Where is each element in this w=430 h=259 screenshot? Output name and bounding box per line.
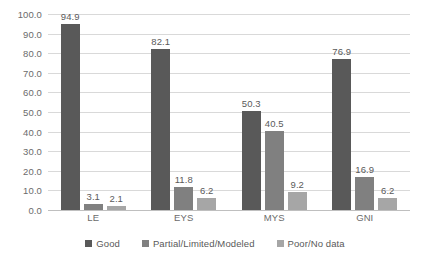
bar-eys-series-0[interactable] — [151, 49, 170, 210]
bar-value-label: 40.5 — [265, 118, 284, 129]
bar-value-label: 9.2 — [290, 179, 304, 190]
bar-value-label: 16.9 — [355, 164, 374, 175]
legend-label: Poor/No data — [288, 238, 345, 249]
bar-value-label: 50.3 — [242, 98, 261, 109]
bar-le-series-0[interactable] — [61, 24, 80, 210]
bar-eys-series-1[interactable] — [174, 187, 193, 210]
gridline — [48, 210, 410, 211]
chart-legend: GoodPartial/Limited/ModeledPoor/No data — [0, 238, 430, 249]
y-axis: 100.090.080.070.060.050.040.030.020.010.… — [0, 14, 42, 210]
bar-value-label: 82.1 — [151, 36, 170, 47]
x-axis-tick-label-le: LE — [87, 212, 99, 223]
plot-area: 94.93.12.182.111.86.250.340.59.276.916.9… — [48, 14, 410, 210]
y-axis-tick-label: 0.0 — [0, 205, 42, 216]
bar-value-label: 94.9 — [61, 11, 80, 22]
y-axis-tick-label: 40.0 — [0, 126, 42, 137]
legend-item-0[interactable]: Good — [85, 238, 120, 249]
x-axis-tick-label-mys: MYS — [264, 212, 285, 223]
bar-mys-series-0[interactable] — [242, 111, 261, 210]
bar-value-label: 6.2 — [200, 185, 214, 196]
bar-value-label: 11.8 — [175, 174, 193, 185]
bar-gni-series-0[interactable] — [332, 59, 351, 210]
x-axis: LEEYSMYSGNI — [48, 212, 410, 230]
y-axis-tick-label: 90.0 — [0, 28, 42, 39]
y-axis-tick-label: 70.0 — [0, 67, 42, 78]
bar-le-series-1[interactable] — [84, 204, 103, 210]
bar-mys-series-2[interactable] — [288, 192, 307, 210]
legend-label: Good — [96, 238, 120, 249]
y-axis-tick-label: 80.0 — [0, 48, 42, 59]
bar-gni-series-1[interactable] — [355, 177, 374, 210]
bar-group-le: 94.93.12.1 — [48, 14, 139, 210]
bar-group-eys: 82.111.86.2 — [139, 14, 230, 210]
y-axis-tick-label: 30.0 — [0, 146, 42, 157]
y-axis-tick-label: 50.0 — [0, 107, 42, 118]
y-axis-tick-label: 60.0 — [0, 87, 42, 98]
y-axis-tick-label: 20.0 — [0, 165, 42, 176]
legend-label: Partial/Limited/Modeled — [153, 238, 255, 249]
y-axis-tick-label: 10.0 — [0, 185, 42, 196]
bar-mys-series-1[interactable] — [265, 131, 284, 210]
legend-swatch-icon — [142, 240, 149, 247]
bar-le-series-2[interactable] — [107, 206, 126, 210]
legend-item-2[interactable]: Poor/No data — [277, 238, 345, 249]
bar-eys-series-2[interactable] — [197, 198, 216, 210]
bar-value-label: 3.1 — [86, 191, 100, 202]
legend-item-1[interactable]: Partial/Limited/Modeled — [142, 238, 255, 249]
bar-value-label: 76.9 — [332, 46, 351, 57]
bar-value-label: 6.2 — [381, 185, 395, 196]
x-axis-tick-label-eys: EYS — [174, 212, 193, 223]
y-axis-tick-label: 100.0 — [0, 9, 42, 20]
bar-group-gni: 76.916.96.2 — [320, 14, 411, 210]
bar-value-label: 2.1 — [109, 193, 123, 204]
x-axis-tick-label-gni: GNI — [356, 212, 373, 223]
legend-swatch-icon — [85, 240, 92, 247]
bar-chart: 100.090.080.070.060.050.040.030.020.010.… — [0, 0, 430, 259]
legend-swatch-icon — [277, 240, 284, 247]
bar-gni-series-2[interactable] — [378, 198, 397, 210]
bar-group-mys: 50.340.59.2 — [229, 14, 320, 210]
